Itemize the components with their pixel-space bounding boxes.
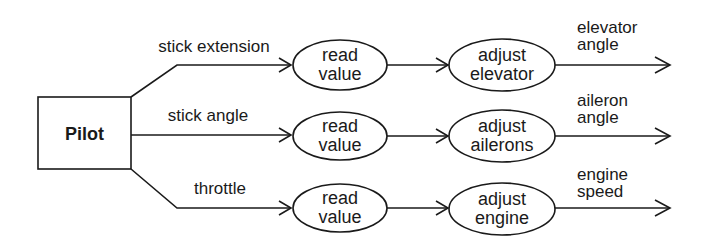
- adjust-node-line1: adjust: [478, 45, 526, 65]
- input-label-throttle: throttle: [194, 179, 246, 198]
- adjust-node-line1: adjust: [478, 116, 526, 136]
- output-label-line2: angle: [577, 108, 619, 127]
- input-label-stick-angle: stick angle: [168, 106, 248, 125]
- row-elevator: stick extension read value adjust elevat…: [131, 18, 670, 97]
- output-label-line2: angle: [577, 35, 619, 54]
- adjust-node-line1: adjust: [478, 189, 526, 209]
- adjust-node-line2: ailerons: [470, 135, 533, 155]
- read-node-line1: read: [322, 116, 358, 136]
- row-ailerons: stick angle read value adjust ailerons a…: [131, 91, 670, 162]
- input-edge-stick-extension: [131, 65, 291, 97]
- read-node-line1: read: [322, 45, 358, 65]
- adjust-node-line2: engine: [475, 208, 529, 228]
- read-node-line2: value: [318, 135, 361, 155]
- adjust-node-line2: elevator: [470, 64, 534, 84]
- output-label-line2: speed: [577, 182, 623, 201]
- read-node-line2: value: [318, 64, 361, 84]
- read-node-line2: value: [318, 207, 361, 227]
- input-label-stick-extension: stick extension: [158, 37, 270, 56]
- pilot-label: Pilot: [65, 124, 104, 144]
- read-node-line1: read: [322, 188, 358, 208]
- control-flow-diagram: Pilot stick extension read value adjust …: [0, 0, 705, 248]
- row-engine: throttle read value adjust engine engine…: [131, 165, 670, 235]
- pilot-node: Pilot: [38, 97, 131, 169]
